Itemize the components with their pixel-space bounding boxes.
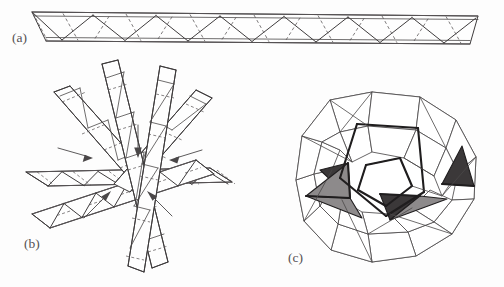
- figure-container: (a): [0, 0, 504, 287]
- arrow-right-head: [169, 156, 180, 163]
- panel-c-polyhedron: (c): [288, 92, 476, 265]
- panel-a-strip: (a): [12, 12, 478, 45]
- panel-b-woven-star: (b): [24, 60, 235, 272]
- arrow-left-line: [58, 148, 86, 156]
- panel-b-label: (b): [24, 236, 40, 251]
- rim-facet-8: [368, 232, 416, 262]
- panel-a-label: (a): [12, 30, 27, 45]
- figure-svg: (a): [0, 0, 504, 287]
- arrow-right-line: [176, 150, 202, 158]
- panel-c-label: (c): [288, 250, 303, 265]
